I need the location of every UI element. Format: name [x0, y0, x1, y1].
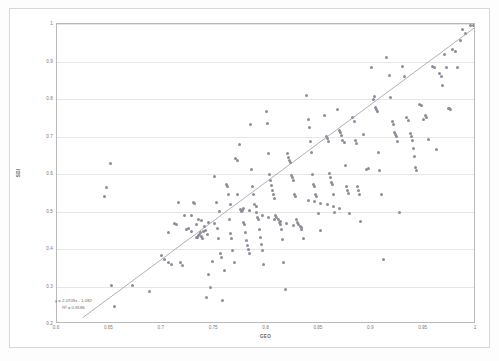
- data-point: [213, 222, 216, 225]
- regression-equation: y = 2.0709x - 1.082: [55, 298, 92, 305]
- data-point: [252, 193, 255, 196]
- x-tick-label: 0.85: [313, 325, 322, 330]
- x-tick-label: 0.9: [367, 325, 373, 330]
- data-point: [215, 201, 218, 204]
- data-point: [262, 263, 265, 266]
- data-point: [395, 135, 398, 138]
- data-point: [420, 104, 423, 107]
- data-point: [403, 75, 406, 78]
- data-point: [308, 126, 311, 129]
- data-point: [362, 133, 365, 136]
- data-point: [376, 110, 379, 113]
- data-point: [245, 239, 248, 242]
- data-point: [197, 218, 200, 221]
- data-point: [353, 120, 356, 123]
- x-tick-label: 0.95: [418, 325, 427, 330]
- data-point: [401, 65, 404, 68]
- r-squared-value: R² = 0.8186: [55, 305, 92, 312]
- y-axis-title: SDI: [16, 169, 21, 177]
- data-point: [113, 322, 116, 323]
- data-point: [367, 167, 370, 170]
- y-tick-label: 0.5: [13, 208, 53, 213]
- data-point: [412, 147, 415, 150]
- gridline: [57, 174, 474, 175]
- x-axis-title: GEO: [56, 334, 475, 339]
- data-point: [307, 118, 310, 121]
- gridline: [57, 62, 474, 63]
- data-point: [267, 216, 270, 219]
- data-point: [200, 219, 203, 222]
- data-point: [310, 151, 313, 154]
- data-point: [258, 228, 261, 231]
- data-point: [415, 169, 418, 172]
- data-point: [213, 175, 216, 178]
- data-point: [247, 248, 250, 251]
- data-point: [236, 159, 239, 162]
- data-point: [461, 28, 464, 31]
- data-point: [265, 110, 268, 113]
- data-point: [249, 123, 252, 126]
- data-point: [332, 193, 335, 196]
- data-point: [472, 24, 475, 27]
- regression-annotation: y = 2.0709x - 1.082 R² = 0.8186: [55, 298, 92, 311]
- data-point: [329, 176, 332, 179]
- data-point: [167, 231, 170, 234]
- data-point: [413, 155, 416, 158]
- data-point: [206, 233, 209, 236]
- data-point: [220, 256, 223, 259]
- data-point: [440, 75, 443, 78]
- trendline: [57, 24, 474, 322]
- data-point: [380, 193, 383, 196]
- data-point: [190, 230, 193, 233]
- data-point: [328, 172, 331, 175]
- data-point: [205, 296, 208, 299]
- data-point: [407, 119, 410, 122]
- data-point: [355, 142, 358, 145]
- data-point: [246, 244, 249, 247]
- y-tick-label: 0.4: [13, 246, 53, 251]
- data-point: [454, 50, 457, 53]
- data-point: [207, 273, 210, 276]
- data-point: [266, 122, 269, 125]
- chart-frame: 0.20.30.40.50.60.70.80.91 0.60.650.70.75…: [9, 8, 490, 348]
- data-point: [357, 189, 360, 192]
- data-point: [229, 232, 232, 235]
- data-point: [279, 223, 282, 226]
- data-point: [272, 193, 275, 196]
- y-tick-label: 0.8: [13, 96, 53, 101]
- data-point: [377, 151, 380, 154]
- gridline: [57, 287, 474, 288]
- data-point: [443, 53, 446, 56]
- data-point: [398, 211, 401, 214]
- data-point: [315, 195, 318, 198]
- data-point: [160, 254, 163, 257]
- data-point: [294, 195, 297, 198]
- data-point: [344, 164, 347, 167]
- data-point: [441, 84, 444, 87]
- data-point: [456, 66, 459, 69]
- data-point: [332, 205, 335, 208]
- data-point: [388, 74, 391, 77]
- data-point: [203, 225, 206, 228]
- data-point: [336, 108, 339, 111]
- data-point: [345, 185, 348, 188]
- data-point: [175, 223, 178, 226]
- data-point: [103, 195, 106, 198]
- data-point: [282, 261, 285, 264]
- x-tick-label: 0.8: [262, 325, 268, 330]
- y-tick-label: 0.3: [13, 283, 53, 288]
- data-point: [251, 185, 254, 188]
- data-point: [255, 205, 258, 208]
- gridline: [57, 99, 474, 100]
- data-point: [196, 236, 199, 239]
- data-point: [370, 66, 373, 69]
- data-point: [242, 207, 245, 210]
- data-point: [271, 189, 274, 192]
- data-point: [373, 95, 376, 98]
- data-point: [449, 108, 452, 111]
- data-point: [268, 173, 271, 176]
- data-point: [385, 56, 388, 59]
- data-point: [435, 148, 438, 151]
- data-point: [307, 199, 310, 202]
- y-tick-label: 0.7: [13, 133, 53, 138]
